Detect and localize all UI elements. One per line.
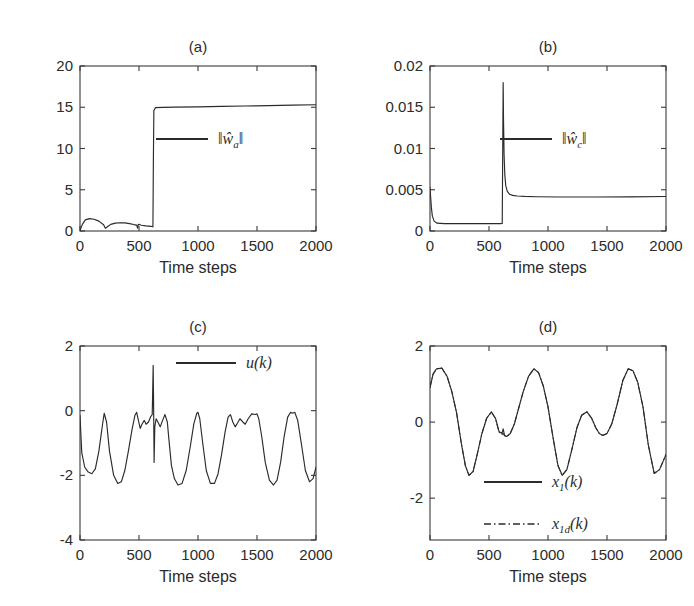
plot-frame xyxy=(80,66,316,231)
x-tick-label: 0 xyxy=(426,546,434,563)
series-u(k) xyxy=(80,365,316,485)
x-tick-label: 1500 xyxy=(240,237,273,254)
y-tick-label: 0 xyxy=(415,413,423,430)
legend-label: ‖ŵc‖ xyxy=(562,130,587,150)
panel-title: (c) xyxy=(189,318,207,335)
plot-frame xyxy=(430,66,666,231)
x-tick-label: 1000 xyxy=(531,237,564,254)
x-tick-label: 1500 xyxy=(240,546,273,563)
x-tick-label: 500 xyxy=(126,237,151,254)
chart-panel-a: (a)051015200500100015002000Time steps‖ŵ… xyxy=(18,18,348,310)
legend: x1(k)x1d(k) xyxy=(484,473,588,535)
x-tick-label: 0 xyxy=(76,237,84,254)
x-axis-title: Time steps xyxy=(159,568,237,585)
y-tick-label: 20 xyxy=(56,57,73,74)
legend-label: ‖ŵa‖ xyxy=(218,130,243,150)
legend-label: x1d(k) xyxy=(551,515,588,535)
x-axis-title: Time steps xyxy=(509,568,587,585)
series-||w_c_hat|| xyxy=(430,83,666,224)
y-tick-label: 2 xyxy=(65,337,73,354)
x-tick-label: 1000 xyxy=(181,546,214,563)
plot-frame xyxy=(430,346,666,540)
y-tick-label: -2 xyxy=(60,466,73,483)
y-tick-label: 0 xyxy=(65,222,73,239)
chart-panel-b: (b)00.0050.010.0150.020500100015002000Ti… xyxy=(350,18,694,310)
figure-container: (a)051015200500100015002000Time steps‖ŵ… xyxy=(0,0,694,606)
y-tick-label: 0.015 xyxy=(385,98,423,115)
x-tick-label: 2000 xyxy=(299,546,332,563)
x-axis-title: Time steps xyxy=(159,259,237,276)
x-tick-label: 2000 xyxy=(649,546,682,563)
series-x_1d(k) xyxy=(430,368,666,475)
y-tick-label: 15 xyxy=(56,98,73,115)
panel-title: (b) xyxy=(539,38,557,55)
plot-frame xyxy=(80,346,316,540)
x-tick-label: 1000 xyxy=(531,546,564,563)
x-tick-label: 0 xyxy=(76,546,84,563)
legend: ‖ŵa‖ xyxy=(156,130,243,150)
x-axis-title: Time steps xyxy=(509,259,587,276)
y-tick-label: -4 xyxy=(60,531,73,548)
x-tick-label: 2000 xyxy=(649,237,682,254)
x-tick-label: 1000 xyxy=(181,237,214,254)
x-tick-label: 500 xyxy=(476,237,501,254)
x-tick-label: 1500 xyxy=(590,546,623,563)
y-tick-label: 2 xyxy=(415,337,423,354)
chart-panel-c: (c)-4-2020500100015002000Time stepsu(k) xyxy=(18,306,348,606)
x-tick-label: 0 xyxy=(426,237,434,254)
y-tick-label: 0.01 xyxy=(394,140,423,157)
y-tick-label: 10 xyxy=(56,140,73,157)
y-tick-label: 0.02 xyxy=(394,57,423,74)
y-tick-label: 0.005 xyxy=(385,181,423,198)
legend: ‖ŵc‖ xyxy=(500,130,587,150)
x-tick-label: 500 xyxy=(476,546,501,563)
series-||w_a_hat|| xyxy=(80,105,316,231)
y-tick-label: 0 xyxy=(65,402,73,419)
y-tick-label: 0 xyxy=(415,222,423,239)
y-tick-label: 5 xyxy=(65,181,73,198)
chart-panel-d: (d)-2020500100015002000Time stepsx1(k)x1… xyxy=(350,306,694,606)
x-tick-label: 500 xyxy=(126,546,151,563)
legend: u(k) xyxy=(176,354,272,372)
x-tick-label: 2000 xyxy=(299,237,332,254)
legend-label: x1(k) xyxy=(551,473,582,493)
y-tick-label: -2 xyxy=(410,489,423,506)
panel-title: (d) xyxy=(539,318,557,335)
panel-title: (a) xyxy=(189,38,207,55)
legend-label: u(k) xyxy=(246,354,272,372)
x-tick-label: 1500 xyxy=(590,237,623,254)
series-x_1(k) xyxy=(430,368,666,475)
